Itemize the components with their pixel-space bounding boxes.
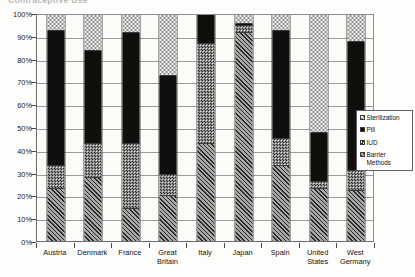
- bar-segment-pill[interactable]: [47, 31, 64, 167]
- bar-segment-sterilization[interactable]: [235, 15, 252, 24]
- x-axis-label: Italy: [198, 248, 212, 257]
- y-axis-tick-label: 10%: [0, 215, 32, 224]
- x-axis-tick-mark: [374, 243, 375, 248]
- y-axis-tick-mark: [31, 219, 36, 220]
- stacked-bar[interactable]: [196, 15, 215, 241]
- legend-label: Sterilization: [367, 114, 400, 121]
- legend-item[interactable]: Barrier Methods: [360, 151, 409, 166]
- bar-segment-pill[interactable]: [310, 133, 327, 183]
- x-axis-tick-mark: [224, 243, 225, 248]
- y-axis-tick-label: 50%: [0, 124, 32, 133]
- bar-segment-sterilization[interactable]: [47, 15, 64, 31]
- bar-segment-iud[interactable]: [310, 182, 327, 189]
- bar-slot: [225, 15, 263, 241]
- x-axis-tick-mark: [74, 243, 75, 248]
- bar-slot: [300, 15, 338, 241]
- bar-segment-pill[interactable]: [160, 76, 177, 175]
- bar-segment-sterilization[interactable]: [273, 15, 290, 31]
- x-axis-tick-mark: [186, 243, 187, 248]
- y-axis-tick-mark: [31, 151, 36, 152]
- y-axis-tick-mark: [31, 82, 36, 83]
- y-axis-tick-mark: [31, 37, 36, 38]
- bar-segment-pill[interactable]: [122, 33, 139, 144]
- bar-segment-iud[interactable]: [235, 26, 252, 33]
- bar-segment-iud[interactable]: [85, 144, 102, 178]
- y-axis-tick-mark: [31, 14, 36, 15]
- legend-item[interactable]: IUD: [360, 139, 409, 146]
- chart-title-strip: Contraceptive Use: [0, 0, 415, 9]
- legend-swatch-icon: [360, 152, 365, 157]
- y-axis-tick-mark: [31, 105, 36, 106]
- bar-segment-barrier-methods[interactable]: [235, 33, 252, 241]
- bar-segment-pill[interactable]: [273, 31, 290, 139]
- bar-segment-pill[interactable]: [85, 51, 102, 144]
- y-axis-tick-mark: [31, 174, 36, 175]
- stacked-bar[interactable]: [159, 15, 178, 241]
- legend-swatch-icon: [360, 115, 365, 120]
- y-axis-tick-label: 20%: [0, 192, 32, 201]
- x-axis-label: Great Britain: [157, 248, 178, 267]
- y-axis-tick-label: 90%: [0, 32, 32, 41]
- x-axis-tick-mark: [261, 243, 262, 248]
- legend-label: IUD: [367, 139, 378, 146]
- x-axis-label: United States: [307, 248, 328, 267]
- bar-segment-barrier-methods[interactable]: [47, 189, 64, 241]
- stacked-bar[interactable]: [272, 15, 291, 241]
- x-axis-tick-mark: [149, 243, 150, 248]
- page-title: Contraceptive Use: [8, 0, 88, 5]
- x-axis-label: Japan: [232, 248, 252, 257]
- bar-segment-iud[interactable]: [273, 139, 290, 166]
- x-axis-label: West Germany: [340, 248, 370, 267]
- bar-segment-sterilization[interactable]: [85, 15, 102, 51]
- bar-segment-barrier-methods[interactable]: [197, 144, 214, 241]
- bar-segment-iud[interactable]: [122, 144, 139, 210]
- bar-segment-pill[interactable]: [235, 24, 252, 26]
- bar-segment-barrier-methods[interactable]: [85, 178, 102, 241]
- bar-slot: [37, 15, 75, 241]
- stacked-bar[interactable]: [84, 15, 103, 241]
- y-axis-tick-label: 40%: [0, 146, 32, 155]
- y-axis-tick-mark: [31, 60, 36, 61]
- y-axis-tick-label: 100%: [0, 10, 32, 19]
- x-axis-label: France: [118, 248, 141, 257]
- bar-segment-barrier-methods[interactable]: [122, 209, 139, 241]
- bar-slot: [112, 15, 150, 241]
- bar-segment-barrier-methods[interactable]: [348, 191, 365, 241]
- stacked-bar[interactable]: [309, 15, 328, 241]
- bar-segment-pill[interactable]: [197, 15, 214, 44]
- y-axis-tick-label: 30%: [0, 169, 32, 178]
- bar-segment-barrier-methods[interactable]: [310, 189, 327, 241]
- bar-segment-sterilization[interactable]: [160, 15, 177, 76]
- y-axis-tick-mark: [31, 196, 36, 197]
- plot-area: [36, 14, 374, 242]
- bar-segment-sterilization[interactable]: [348, 15, 365, 42]
- legend-item[interactable]: Sterilization: [360, 114, 409, 121]
- y-axis-tick-mark: [31, 128, 36, 129]
- bar-segment-iud[interactable]: [197, 44, 214, 143]
- bar-segment-iud[interactable]: [160, 175, 177, 195]
- legend: SterilizationPillIUDBarrier Methods: [356, 110, 413, 171]
- bar-segment-sterilization[interactable]: [310, 15, 327, 133]
- bar-segment-barrier-methods[interactable]: [160, 196, 177, 241]
- stacked-bar[interactable]: [121, 15, 140, 241]
- bar-slot: [150, 15, 188, 241]
- x-axis-tick-mark: [111, 243, 112, 248]
- legend-label: Pill: [367, 126, 376, 133]
- legend-swatch-icon: [360, 127, 365, 132]
- y-axis-tick-label: 70%: [0, 78, 32, 87]
- x-axis-label: Austria: [43, 248, 66, 257]
- stacked-bar[interactable]: [234, 15, 253, 241]
- bar-slot: [262, 15, 300, 241]
- bar-segment-iud[interactable]: [47, 166, 64, 189]
- x-axis-label: Denmark: [77, 248, 107, 257]
- legend-item[interactable]: Pill: [360, 126, 409, 133]
- bar-segment-sterilization[interactable]: [122, 15, 139, 33]
- stacked-bar[interactable]: [46, 15, 65, 241]
- x-axis-tick-mark: [336, 243, 337, 248]
- bar-segment-barrier-methods[interactable]: [273, 166, 290, 241]
- y-axis-tick-label: 60%: [0, 101, 32, 110]
- x-axis-tick-mark: [36, 243, 37, 248]
- bar-segment-iud[interactable]: [348, 171, 365, 191]
- y-axis-tick-label: 80%: [0, 55, 32, 64]
- bar-slot: [187, 15, 225, 241]
